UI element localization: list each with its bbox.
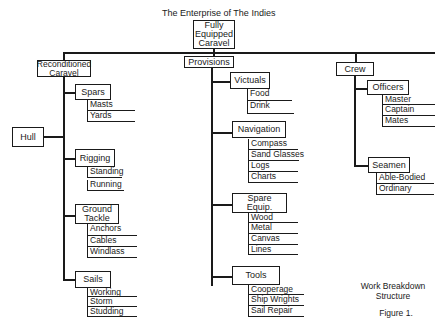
node-sails: Sails bbox=[75, 271, 111, 288]
connector bbox=[211, 132, 233, 134]
leaf-sail-repair: Sail Repair bbox=[248, 306, 304, 317]
node-spars: Spars bbox=[75, 84, 111, 100]
leaf-drink: Drink bbox=[247, 101, 294, 114]
leaf-studding: Studding bbox=[87, 307, 137, 317]
node-spare-equip: Spare Equip. bbox=[232, 193, 287, 213]
connector bbox=[211, 276, 233, 278]
connector bbox=[211, 204, 233, 206]
node-provisions: Provisions bbox=[184, 56, 234, 68]
node-ground-tackle: Ground Tackle bbox=[75, 204, 119, 224]
leaf-charts: Charts bbox=[248, 172, 298, 183]
connector bbox=[354, 88, 368, 90]
node-tools: Tools bbox=[232, 266, 280, 285]
connector bbox=[211, 68, 213, 286]
node-victuals: Victuals bbox=[230, 72, 270, 89]
node-crew: Crew bbox=[336, 62, 374, 76]
connector bbox=[63, 77, 65, 280]
node-reconditioned-caravel: Reconditioned Caravel bbox=[37, 60, 91, 77]
leaf-running: Running bbox=[87, 180, 124, 191]
leaf-lines: Lines bbox=[248, 245, 298, 255]
leaf-standing: Standing bbox=[87, 167, 122, 178]
caption-subtitle: Work Breakdown Structure bbox=[358, 281, 428, 301]
node-hull: Hull bbox=[12, 127, 44, 147]
connector bbox=[63, 52, 435, 54]
leaf-mates: Mates bbox=[382, 116, 435, 127]
root-node-fully-equipped-caravel: Fully Equipped Caravel bbox=[193, 20, 235, 49]
node-navigation: Navigation bbox=[232, 121, 286, 138]
connector bbox=[354, 76, 356, 166]
caption-figure: Figure 1. bbox=[366, 308, 426, 318]
connector bbox=[354, 165, 369, 167]
connector bbox=[211, 81, 231, 83]
leaf-windlass: Windlass bbox=[87, 247, 137, 258]
leaf-ordinary: Ordinary bbox=[376, 184, 434, 195]
leaf-yards: Yards bbox=[87, 111, 135, 122]
node-seamen: Seamen bbox=[368, 157, 410, 173]
node-rigging: Rigging bbox=[75, 149, 115, 167]
connector bbox=[44, 136, 63, 138]
diagram-title: The Enterprise of The Indies bbox=[162, 8, 275, 18]
connector bbox=[355, 52, 357, 62]
node-officers: Officers bbox=[367, 80, 409, 95]
